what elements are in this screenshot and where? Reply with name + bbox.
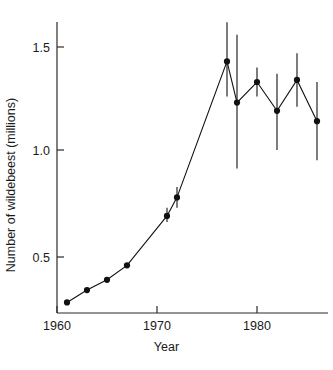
data-point-1978: [234, 100, 240, 106]
data-point-1980: [254, 79, 260, 85]
data-point-1967: [124, 262, 130, 268]
data-point-1972: [174, 194, 180, 200]
y-axis-title: Number of wildebeest (millions): [4, 98, 18, 272]
x-axis-ticks: [57, 306, 257, 313]
data-point-1977: [224, 58, 230, 64]
error-bars-group: [167, 22, 317, 222]
data-point-1961: [64, 299, 70, 305]
x-tick-label-1960: 1960: [43, 319, 71, 333]
data-point-1986: [314, 118, 320, 124]
x-tick-label-1970: 1970: [143, 319, 171, 333]
y-tick-label-1.5: 1.5: [33, 41, 50, 55]
x-tick-labels: 1960 1970 1980: [43, 319, 271, 333]
data-point-1982: [274, 108, 280, 114]
y-axis-title-wrap: Number of wildebeest (millions): [0, 0, 24, 370]
y-tick-label-0.5: 0.5: [33, 251, 50, 265]
axes-group: [57, 22, 328, 313]
series-line-wildebeest: [67, 61, 317, 302]
y-tick-labels: 1.5 1.0 0.5: [33, 41, 50, 265]
data-points-group: [64, 58, 320, 305]
y-axis-ticks: [57, 47, 64, 257]
data-point-1965: [104, 277, 110, 283]
data-point-1971: [164, 213, 170, 219]
x-tick-label-1980: 1980: [243, 319, 271, 333]
data-point-1984: [294, 77, 300, 83]
y-tick-label-1.0: 1.0: [33, 144, 50, 158]
data-point-1963: [84, 287, 90, 293]
figure-panel: 1.5 1.0 0.5 1960 1970 1980 Number of wil…: [0, 0, 333, 370]
x-axis-title: Year: [0, 340, 333, 354]
line-chart-plot: 1.5 1.0 0.5 1960 1970 1980: [0, 0, 333, 370]
